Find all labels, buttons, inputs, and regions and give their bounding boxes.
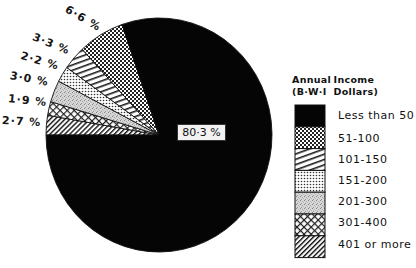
- legend-label-301-400: 301-400: [338, 216, 387, 230]
- legend-label-less-than-50: Less than 50: [338, 109, 414, 123]
- legend: Annual Income (B·W·I Dollars): [292, 74, 416, 98]
- legend-title-word: Annual: [292, 74, 330, 86]
- slice-label-2-7: 2·7 %: [2, 114, 42, 129]
- legend-label-151-200: 151-200: [338, 174, 387, 188]
- legend-swatch-301-400: [295, 214, 325, 236]
- legend-label-201-300: 201-300: [338, 195, 387, 209]
- legend-title-word: Income: [334, 74, 375, 86]
- legend-swatch-51-100: [295, 127, 325, 149]
- legend-title-line-2: (B·W·I Dollars): [292, 86, 416, 98]
- legend-swatch-101-150: [295, 149, 325, 171]
- legend-title-line-1: Annual Income: [292, 74, 416, 86]
- legend-title-word: Dollars): [334, 86, 378, 98]
- legend-swatch-less-than-50: [295, 105, 325, 127]
- legend-label-51-100: 51-100: [338, 132, 380, 146]
- slice-label-80-3: 80·3 %: [177, 124, 226, 141]
- legend-swatch-201-300: [295, 192, 325, 214]
- legend-title-word: (B·W·I: [292, 86, 330, 98]
- legend-swatches: [295, 105, 325, 258]
- legend-swatch-401-or-more: [295, 236, 325, 258]
- legend-label-101-150: 101-150: [338, 153, 387, 167]
- pie-slices: [46, 18, 272, 252]
- legend-swatch-151-200: [295, 170, 325, 192]
- legend-label-401-or-more: 401 or more: [338, 238, 411, 252]
